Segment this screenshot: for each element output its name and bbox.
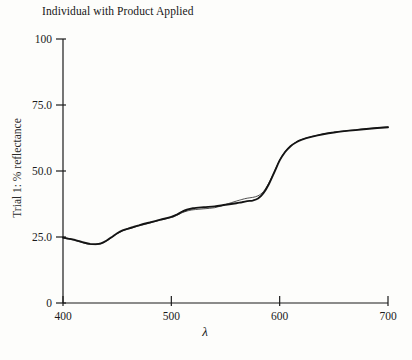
y-tick-label: 50.0 <box>32 165 52 177</box>
figure-panel: Individual with Product Applied 40050060… <box>0 0 412 360</box>
reflectance-line-chart: 400500600700025.050.075.0100 <box>0 0 412 360</box>
reflectance-curve-thin <box>63 127 388 245</box>
y-tick-label: 100 <box>35 33 53 45</box>
y-tick-label: 25.0 <box>32 231 52 243</box>
y-axis-label: Trial 1: % reflectance <box>11 73 23 263</box>
y-tick-label: 0 <box>46 297 52 309</box>
y-tick-label: 75.0 <box>32 99 52 111</box>
x-tick-label: 700 <box>379 310 397 322</box>
x-axis-label: λ <box>190 324 220 340</box>
reflectance-curve-thick <box>63 127 388 244</box>
x-tick-label: 500 <box>163 310 181 322</box>
x-tick-label: 600 <box>271 310 289 322</box>
x-tick-label: 400 <box>54 310 72 322</box>
